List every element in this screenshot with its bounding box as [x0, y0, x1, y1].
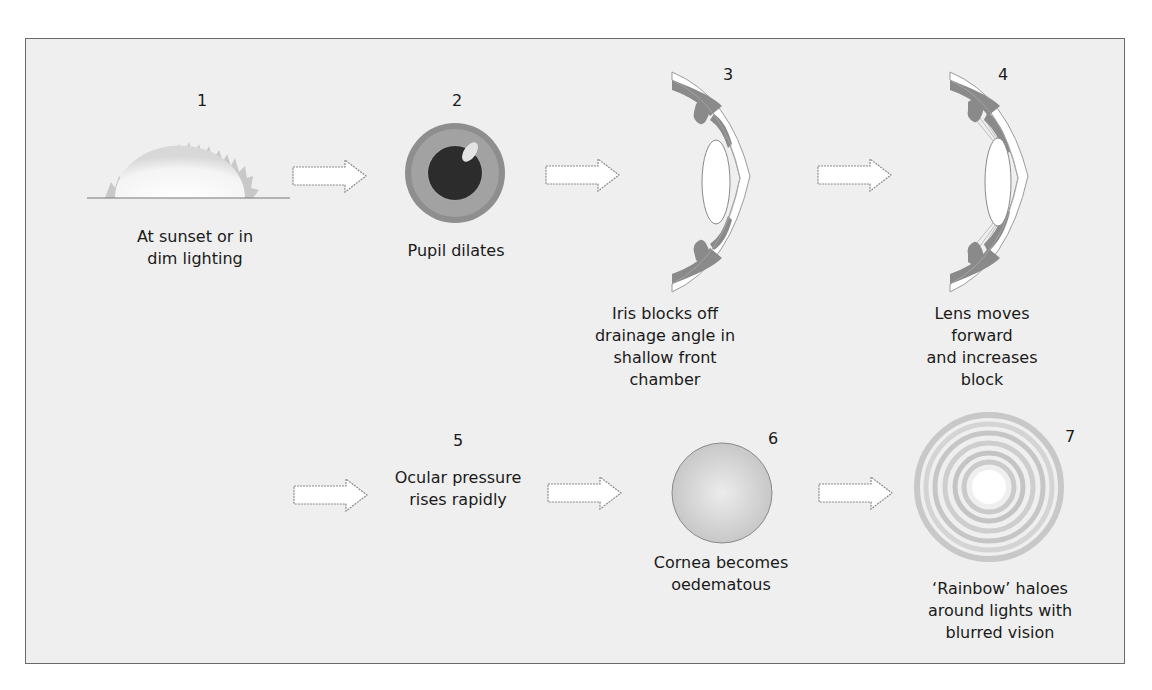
step-2-number: 2 [437, 92, 477, 110]
oedematous-cornea-icon [670, 441, 774, 545]
dilated-pupil-icon [404, 122, 506, 224]
arrow-right-icon [545, 474, 625, 512]
step-5-number: 5 [438, 432, 478, 450]
step-1-number: 1 [182, 92, 222, 110]
step-5-caption: Ocular pressure rises rapidly [395, 467, 522, 511]
arrow-right-icon [815, 156, 895, 194]
step-2-caption: Pupil dilates [408, 240, 505, 262]
step-7-caption: ‘Rainbow’ haloes around lights with blur… [928, 578, 1072, 644]
halo-rings-icon [914, 412, 1064, 562]
sunset-icon [85, 130, 295, 205]
step-1-caption: At sunset or in dim lighting [137, 226, 253, 270]
step-6-caption: Cornea becomes oedematous [654, 552, 788, 596]
step-3-caption: Iris blocks off drainage angle in shallo… [595, 303, 735, 391]
arrow-right-icon [816, 474, 896, 512]
arrow-right-icon [290, 157, 370, 195]
step-4-caption: Lens moves forward and increases block [927, 303, 1038, 391]
eye-cross-section-lens-forward-icon [948, 66, 1048, 298]
eye-cross-section-icon [670, 66, 770, 298]
arrow-right-icon [291, 476, 371, 514]
arrow-right-icon [543, 156, 623, 194]
